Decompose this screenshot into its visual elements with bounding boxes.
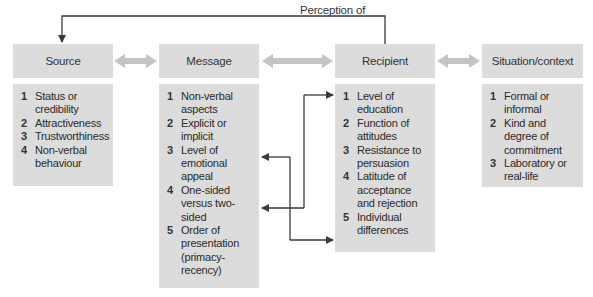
situation-header: Situation/context bbox=[482, 44, 583, 78]
item-number: 1 bbox=[167, 90, 181, 117]
item-number: 2 bbox=[343, 117, 357, 144]
item-text: Order of presentation (primacy-recency) bbox=[181, 224, 253, 278]
item-number: 1 bbox=[21, 90, 35, 117]
list-item: 1Formal or informal bbox=[490, 90, 577, 117]
item-text: Attractiveness bbox=[35, 117, 107, 130]
item-text: Formal or informal bbox=[504, 90, 577, 117]
double-arrow-recipient-situation bbox=[437, 54, 480, 68]
list-item: 2Function of attitudes bbox=[343, 117, 429, 144]
item-text: Explicit or implicit bbox=[181, 117, 253, 144]
list-item: 4One-sided versus two-sided bbox=[167, 184, 253, 224]
double-arrow-source-message bbox=[114, 54, 157, 68]
list-item: 1Status or credibility bbox=[21, 90, 107, 117]
source-factors-list: 1Status or credibility 2Attractiveness 3… bbox=[13, 84, 113, 186]
item-number: 1 bbox=[343, 90, 357, 117]
item-text: Status or credibility bbox=[35, 90, 107, 117]
list-item: 1Level of education bbox=[343, 90, 429, 117]
list-item: 5Individual differences bbox=[343, 211, 429, 238]
list-item: 2Attractiveness bbox=[21, 117, 107, 130]
item-number: 4 bbox=[343, 170, 357, 210]
item-text: Kind and degree of commitment bbox=[504, 117, 577, 157]
perception-of-label: Perception of bbox=[300, 4, 365, 16]
item-number: 5 bbox=[343, 211, 357, 238]
item-number: 3 bbox=[21, 130, 35, 143]
item-number: 2 bbox=[167, 117, 181, 144]
item-number: 3 bbox=[167, 144, 181, 184]
list-item: 5Order of presentation (primacy-recency) bbox=[167, 224, 253, 278]
item-number: 5 bbox=[167, 224, 181, 278]
perception-feedback-arrow bbox=[62, 16, 385, 44]
double-arrow-message-recipient bbox=[262, 54, 333, 68]
item-text: Latitude of acceptance and rejection bbox=[357, 170, 429, 210]
item-number: 3 bbox=[343, 144, 357, 171]
item-text: Resistance to persuasion bbox=[357, 144, 429, 171]
item-text: Trustworthiness bbox=[35, 130, 109, 143]
list-item: 3Level of emotional appeal bbox=[167, 144, 253, 184]
list-item: 2Kind and degree of commitment bbox=[490, 117, 577, 157]
list-item: 4Non-verbal behaviour bbox=[21, 144, 107, 171]
list-item: 1Non-verbal aspects bbox=[167, 90, 253, 117]
item-text: Function of attitudes bbox=[357, 117, 429, 144]
source-header: Source bbox=[13, 44, 113, 78]
link-emotional-appeal-to-individual-differences bbox=[262, 157, 333, 240]
item-number: 2 bbox=[21, 117, 35, 130]
item-text: Level of emotional appeal bbox=[181, 144, 253, 184]
item-text: Laboratory or real-life bbox=[504, 157, 577, 184]
item-number: 4 bbox=[167, 184, 181, 224]
item-number: 4 bbox=[21, 144, 35, 171]
recipient-header: Recipient bbox=[335, 44, 435, 78]
situation-factors-list: 1Formal or informal 2Kind and degree of … bbox=[482, 84, 583, 187]
item-number: 3 bbox=[490, 157, 504, 184]
item-text: Non-verbal behaviour bbox=[35, 144, 107, 171]
link-education-to-one-sided bbox=[262, 95, 333, 208]
list-item: 3Laboratory or real-life bbox=[490, 157, 577, 184]
list-item: 3Resistance to persuasion bbox=[343, 144, 429, 171]
item-text: Individual differences bbox=[357, 211, 429, 238]
recipient-factors-list: 1Level of education 2Function of attitud… bbox=[335, 84, 435, 252]
message-factors-list: 1Non-verbal aspects 2Explicit or implici… bbox=[159, 84, 259, 288]
list-item: 4Latitude of acceptance and rejection bbox=[343, 170, 429, 210]
list-item: 2Explicit or implicit bbox=[167, 117, 253, 144]
list-item: 3Trustworthiness bbox=[21, 130, 107, 143]
item-number: 1 bbox=[490, 90, 504, 117]
item-number: 2 bbox=[490, 117, 504, 157]
item-text: Level of education bbox=[357, 90, 429, 117]
item-text: One-sided versus two-sided bbox=[181, 184, 253, 224]
message-header: Message bbox=[159, 44, 259, 78]
item-text: Non-verbal aspects bbox=[181, 90, 253, 117]
